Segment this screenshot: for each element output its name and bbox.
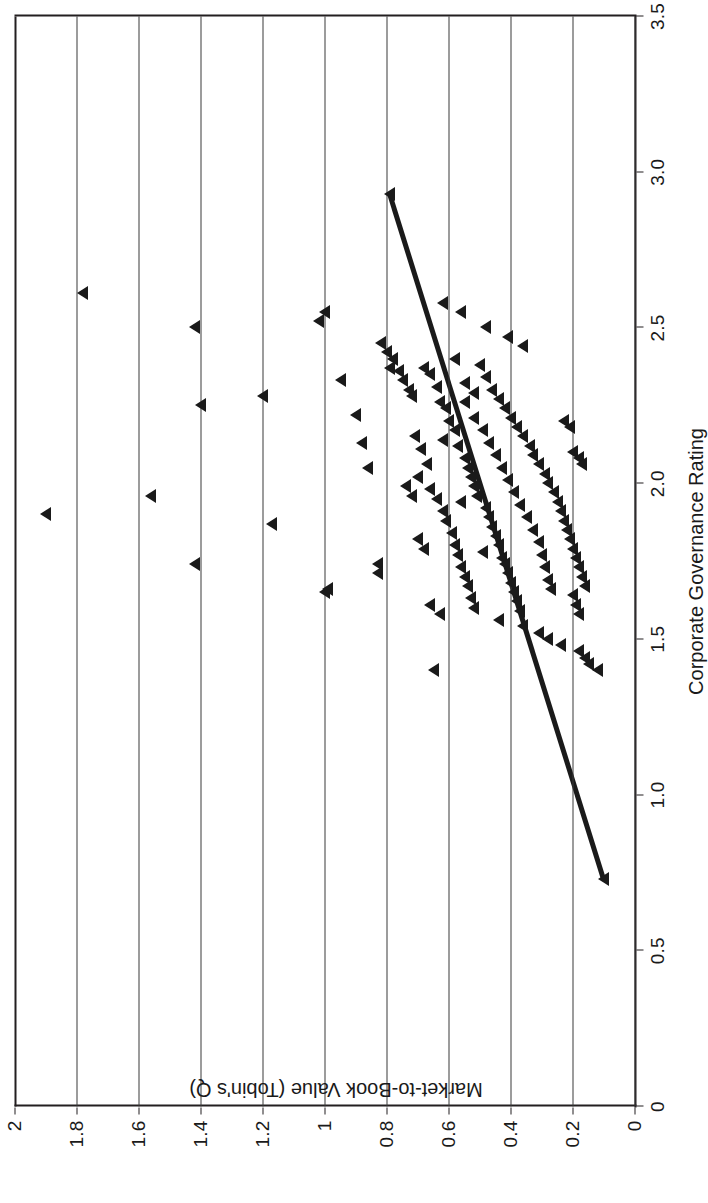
data-point [492, 538, 503, 552]
y-axis-tick-label: 0.4 [499, 1120, 521, 1147]
data-point [467, 385, 478, 399]
x-axis-title: Corporate Governance Rating [684, 16, 707, 1106]
data-point [188, 320, 199, 334]
data-point [415, 441, 426, 455]
x-axis-tick-label: 3.5 [646, 2, 668, 29]
y-axis-tick [572, 1107, 573, 1114]
data-point [563, 420, 574, 434]
gridline-y [14, 16, 16, 1106]
data-point [477, 544, 488, 558]
data-point [405, 388, 416, 402]
x-axis-tick [636, 15, 643, 16]
data-point [492, 613, 503, 627]
scatter-chart: Corporate Governance Rating Market-to-Bo… [0, 0, 708, 1203]
data-point [408, 429, 419, 443]
data-point [319, 304, 330, 318]
y-axis-tick-label: 0.2 [561, 1120, 583, 1147]
data-point [77, 286, 88, 300]
data-point [439, 513, 450, 527]
data-point [573, 606, 584, 620]
y-axis-tick [138, 1107, 139, 1114]
data-point [40, 507, 51, 521]
data-point [412, 469, 423, 483]
x-axis-tick-label: 3.0 [646, 158, 668, 185]
data-point [362, 460, 373, 474]
x-axis-tick [636, 482, 643, 483]
data-point [439, 401, 450, 415]
data-point [480, 320, 491, 334]
gridline-y [138, 16, 139, 1106]
data-point [517, 339, 528, 353]
data-point [188, 557, 199, 571]
gridline-y [200, 16, 201, 1106]
data-point [356, 435, 367, 449]
data-point [489, 448, 500, 462]
y-axis-tick [510, 1107, 511, 1114]
data-point [322, 582, 333, 596]
data-point [477, 423, 488, 437]
y-axis-tick-label: 0.6 [437, 1120, 459, 1147]
plot-area [14, 16, 634, 1106]
y-axis-tick-label: 0.8 [375, 1120, 397, 1147]
data-point [405, 488, 416, 502]
data-point [266, 516, 277, 530]
data-point [514, 603, 525, 617]
x-axis-tick [636, 171, 643, 172]
y-axis-title: Market-to-Book Value (Tobin's Q) [26, 1078, 646, 1101]
data-point [455, 304, 466, 318]
y-axis-tick-label: 1.6 [127, 1120, 149, 1147]
gridline-y [386, 16, 387, 1106]
data-point [371, 566, 382, 580]
data-point [145, 488, 156, 502]
data-point [418, 541, 429, 555]
data-point [579, 578, 590, 592]
data-point [480, 370, 491, 384]
x-axis-tick [636, 1105, 643, 1106]
y-axis-tick-label: 1 [313, 1120, 335, 1131]
data-point [436, 295, 447, 309]
plot-right-edge [14, 14, 636, 16]
data-point [430, 379, 441, 393]
data-point [532, 535, 543, 549]
y-axis-tick [386, 1107, 387, 1114]
data-point [195, 398, 206, 412]
data-point [520, 510, 531, 524]
y-axis-tick [324, 1107, 325, 1114]
gridline-y [510, 16, 511, 1106]
data-point [350, 407, 361, 421]
data-point [508, 485, 519, 499]
data-point [384, 186, 395, 200]
data-point [455, 494, 466, 508]
x-axis-tick [636, 794, 643, 795]
x-axis-tick-label: 0 [646, 1101, 668, 1112]
data-point [501, 329, 512, 343]
data-point [467, 600, 478, 614]
y-axis-tick-label: 1.4 [189, 1120, 211, 1147]
y-axis-tick-label: 2 [3, 1120, 25, 1131]
gridline-y [324, 16, 325, 1106]
data-point [421, 457, 432, 471]
x-axis-tick-label: 1.0 [646, 781, 668, 808]
data-point [433, 606, 444, 620]
gridline-y [634, 16, 635, 1106]
x-axis-tick [636, 638, 643, 639]
data-point [449, 423, 460, 437]
data-point [495, 460, 506, 474]
x-axis-tick-label: 2.0 [646, 470, 668, 497]
y-axis-tick [200, 1107, 201, 1114]
data-point [427, 663, 438, 677]
gridline-y [262, 16, 263, 1106]
x-axis-tick-label: 0.5 [646, 937, 668, 964]
y-axis-tick-label: 1.8 [65, 1120, 87, 1147]
x-axis-tick [636, 949, 643, 950]
x-axis-tick-label: 2.5 [646, 314, 668, 341]
y-axis-tick [448, 1107, 449, 1114]
x-axis-tick [636, 326, 643, 327]
data-point [257, 388, 268, 402]
data-point [545, 582, 556, 596]
data-point [554, 638, 565, 652]
data-point [591, 663, 602, 677]
y-axis-tick-label: 1.2 [251, 1120, 273, 1147]
data-point [436, 432, 447, 446]
data-point [424, 367, 435, 381]
